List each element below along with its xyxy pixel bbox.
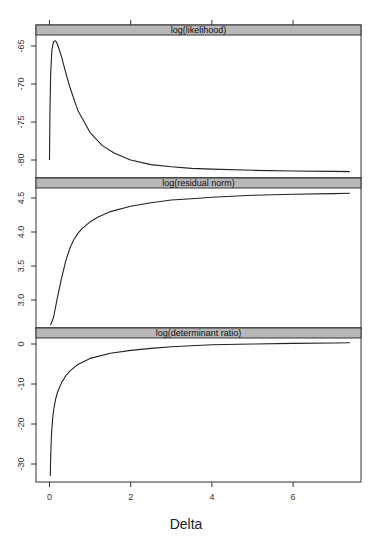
panel-3: log(determinant ratio)0-10-20-30 xyxy=(16,328,361,482)
panel-frame xyxy=(36,178,361,328)
y-tick-label: -70 xyxy=(16,77,26,90)
x-tick-label: 6 xyxy=(291,492,296,502)
panel-frame xyxy=(36,328,361,482)
panel-2: log(residual norm)4.54.03.53.0 xyxy=(16,178,361,328)
y-tick-label: 4.0 xyxy=(16,226,26,239)
y-tick-label: -20 xyxy=(16,417,26,430)
y-tick-label: -65 xyxy=(16,39,26,52)
y-tick-label: -10 xyxy=(16,377,26,390)
lattice-figure: log(likelihood)-65-70-75-80log(residual … xyxy=(0,0,372,547)
strip-title: log(residual norm) xyxy=(162,178,235,188)
y-tick-label: -30 xyxy=(16,457,26,470)
y-tick-label: 3.5 xyxy=(16,260,26,273)
y-tick-label: 4.5 xyxy=(16,192,26,205)
x-tick-label: 2 xyxy=(128,492,133,502)
strip-title: log(determinant ratio) xyxy=(156,328,242,338)
y-tick-label: 3.0 xyxy=(16,294,26,307)
y-tick-label: 0 xyxy=(16,341,26,346)
y-tick-label: -75 xyxy=(16,115,26,128)
x-tick-label: 0 xyxy=(47,492,52,502)
panel-1: log(likelihood)-65-70-75-80 xyxy=(16,25,361,178)
panels-group: log(likelihood)-65-70-75-80log(residual … xyxy=(16,25,361,482)
y-tick-label: -80 xyxy=(16,153,26,166)
bottom-x-axis: 0246 xyxy=(47,482,296,502)
panel-frame xyxy=(36,25,361,178)
strip-title: log(likelihood) xyxy=(171,25,227,35)
x-tick-label: 4 xyxy=(209,492,214,502)
x-axis-label: Delta xyxy=(170,516,203,532)
